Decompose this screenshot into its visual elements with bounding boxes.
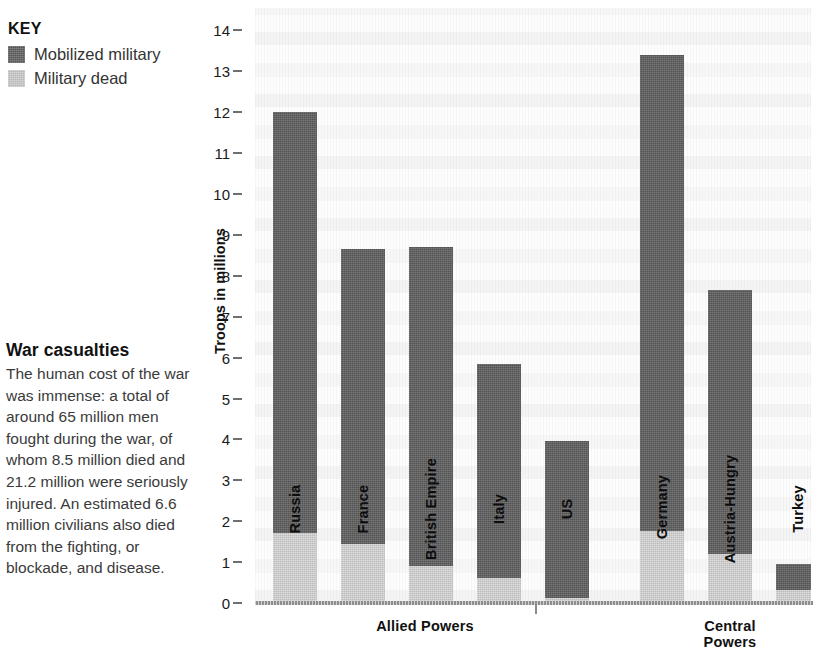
bar-us[interactable]: US [545,441,589,603]
group-label-allied-powers: Allied Powers [376,618,474,634]
legend-swatch-icon-dead [8,70,25,87]
bar-label-italy: Italy [491,494,507,524]
bar-segment-dead [273,533,317,603]
y-axis-tick-mark [233,70,242,72]
legend-label-dead: Military dead [34,69,128,88]
bar-label-british-empire: British Empire [423,458,439,560]
y-axis-tick-mark [233,357,242,359]
y-axis-tick-label: 6 [196,349,230,366]
legend-title: KEY [8,20,198,38]
left-sidebar: KEY Mobilized military Military dead War… [0,0,196,643]
bar-italy[interactable]: Italy [477,364,521,603]
article-body-text: The human cost of the war was immense: a… [6,363,202,579]
y-axis-tick-label: 1 [196,554,230,571]
article-heading: War casualties [6,340,202,361]
y-axis-tick-label: 2 [196,513,230,530]
bar-segment-dead [409,566,453,603]
plot-area: RussiaFranceBritish EmpireItalyUSGermany… [255,8,811,603]
y-axis-tick-label: 3 [196,472,230,489]
group-label-central-powers: Central Powers [687,618,774,650]
legend-item-dead: Military dead [8,69,198,88]
article-block: War casualties The human cost of the war… [6,340,202,579]
bar-label-turkey: Turkey [790,485,806,533]
y-axis-tick-mark [233,438,242,440]
bar-segment-mobilized [477,364,521,603]
y-axis-tick-mark [233,152,242,154]
bar-label-germany: Germany [654,474,670,538]
y-axis-tick-label: 11 [196,145,230,162]
y-axis-tick-label: 5 [196,390,230,407]
y-axis-tick-mark [233,193,242,195]
bar-label-france: France [355,485,371,534]
bar-segment-dead [341,544,385,603]
y-axis-tick-label: 7 [196,308,230,325]
y-axis-tick-label: 4 [196,431,230,448]
legend-item-mobilized: Mobilized military [8,45,198,64]
y-axis-tick-label: 10 [196,186,230,203]
y-axis-tick-mark [233,602,242,604]
bar-chart: Troops in millions 01234567891011121314 … [196,0,817,643]
bar-label-russia: Russia [287,485,303,534]
group-divider-tick [535,605,537,614]
y-axis-tick-mark [233,275,242,277]
y-axis-tick-mark [233,479,242,481]
y-axis-tick-label: 0 [196,595,230,612]
y-axis-tick-mark [233,234,242,236]
y-axis-tick-label: 9 [196,226,230,243]
y-axis-tick-mark [233,398,242,400]
chart-legend: KEY Mobilized military Military dead [8,20,198,93]
y-axis-tick-mark [233,29,242,31]
bar-austria-hungry[interactable]: Austria-Hungry [708,290,752,603]
bar-turkey[interactable]: Turkey [776,564,811,603]
y-axis-tick-label: 13 [196,63,230,80]
bar-label-austria-hungry: Austria-Hungry [722,455,738,563]
y-axis-tick-label: 8 [196,267,230,284]
legend-swatch-icon-mobilized [8,46,25,63]
y-axis-tick-mark [233,316,242,318]
y-axis-tick-mark [233,561,242,563]
bar-segment-dead [640,531,684,603]
bar-segment-dead [477,578,521,603]
y-axis-tick-label: 12 [196,104,230,121]
bar-russia[interactable]: Russia [273,112,317,603]
bar-british-empire[interactable]: British Empire [409,247,453,603]
y-axis-tick-mark [233,111,242,113]
bar-label-us: US [559,499,575,520]
y-axis-tick-label: 14 [196,22,230,39]
bar-segment-mobilized [545,441,589,603]
x-axis-line [255,601,813,605]
y-axis-ticks: 01234567891011121314 [196,0,256,643]
y-axis-tick-mark [233,520,242,522]
legend-label-mobilized: Mobilized military [34,45,161,64]
bar-germany[interactable]: Germany [640,55,684,603]
bar-france[interactable]: France [341,249,385,603]
